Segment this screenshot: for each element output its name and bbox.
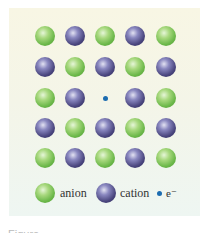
anion-icon (95, 148, 115, 168)
anion-icon (35, 26, 55, 46)
anion-icon (156, 26, 176, 46)
legend-cation-label: cation (120, 186, 149, 200)
cation-icon (156, 57, 176, 77)
cation-icon (125, 88, 145, 108)
cation-icon (95, 57, 115, 77)
anion-icon (35, 88, 55, 108)
electron-icon (103, 96, 108, 101)
anion-icon (35, 148, 55, 168)
legend-cation-icon (96, 183, 116, 203)
legend-electron-icon (157, 191, 162, 196)
anion-icon (65, 118, 85, 138)
cation-icon (95, 118, 115, 138)
cation-icon (125, 26, 145, 46)
figure-caption: Figure (8, 228, 39, 233)
cation-icon (35, 57, 55, 77)
cation-icon (156, 118, 176, 138)
anion-icon (125, 57, 145, 77)
legend-anion-icon (35, 183, 55, 203)
anion-icon (156, 148, 176, 168)
anion-icon (65, 57, 85, 77)
legend-electron-label: e⁻ (166, 186, 177, 200)
cation-icon (125, 148, 145, 168)
cation-icon (65, 148, 85, 168)
anion-icon (156, 88, 176, 108)
anion-icon (95, 26, 115, 46)
cation-icon (35, 118, 55, 138)
cation-icon (65, 26, 85, 46)
legend-anion-label: anion (60, 186, 87, 200)
cation-icon (65, 88, 85, 108)
anion-icon (125, 118, 145, 138)
